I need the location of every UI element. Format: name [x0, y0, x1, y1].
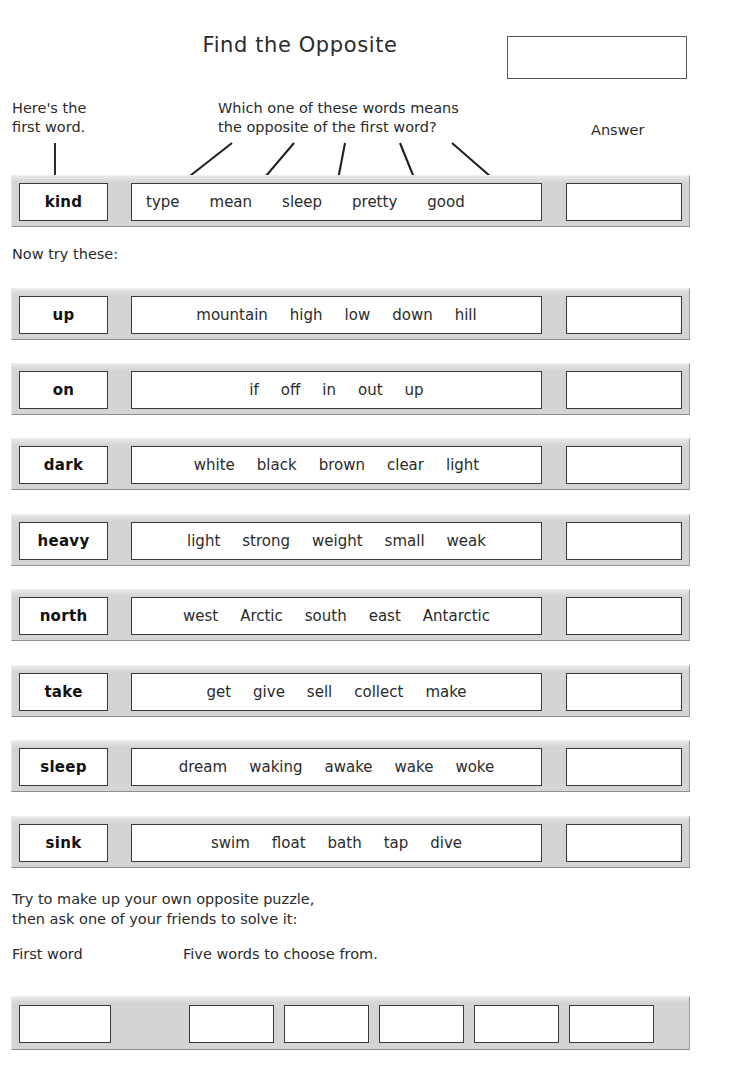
annotation-answer: Answer	[591, 121, 644, 140]
choice-word[interactable]: off	[281, 381, 301, 399]
annotation-which-word: Which one of these words means the oppos…	[218, 99, 459, 137]
row-first-word-box: north	[19, 597, 108, 635]
choice-word[interactable]: down	[392, 306, 432, 324]
choice-word[interactable]: sleep	[282, 193, 322, 211]
choice-word[interactable]: get	[206, 683, 231, 701]
annotation-first-word: Here's the first word.	[12, 99, 86, 137]
row-choices-box: white black brown clear light	[131, 446, 542, 484]
row-first-word-box: up	[19, 296, 108, 334]
choice-word[interactable]: weak	[447, 532, 486, 550]
choice-word[interactable]: woke	[455, 758, 494, 776]
blank-puzzle-row	[11, 996, 690, 1050]
row-choices: get give sell collect make	[206, 683, 466, 701]
choice-word[interactable]: weight	[312, 532, 363, 550]
row-choices: dream waking awake wake woke	[179, 758, 494, 776]
choice-word[interactable]: in	[322, 381, 336, 399]
choice-word[interactable]: good	[427, 193, 464, 211]
choice-word[interactable]: small	[385, 532, 425, 550]
row-first-word: dark	[44, 456, 83, 474]
choice-word[interactable]: sell	[307, 683, 332, 701]
row-choices-box: light strong weight small weak	[131, 522, 542, 560]
row-first-word: on	[53, 381, 75, 399]
example-choices: type mean sleep pretty good	[146, 193, 465, 211]
choice-word[interactable]: dive	[430, 834, 462, 852]
choice-word[interactable]: waking	[249, 758, 302, 776]
row-answer-box[interactable]	[566, 824, 682, 862]
choice-word[interactable]: brown	[319, 456, 365, 474]
choice-word[interactable]: if	[249, 381, 258, 399]
row-choices-box: mountain high low down hill	[131, 296, 542, 334]
puzzle-row: dark white black brown clear light	[11, 438, 690, 490]
row-choices: mountain high low down hill	[196, 306, 476, 324]
blank-choice-box[interactable]	[189, 1005, 274, 1043]
choice-word[interactable]: south	[305, 607, 347, 625]
row-answer-box[interactable]	[566, 296, 682, 334]
choice-word[interactable]: swim	[211, 834, 250, 852]
puzzle-row: sink swim float bath tap dive	[11, 816, 690, 868]
example-answer-box[interactable]	[566, 183, 682, 221]
row-answer-box[interactable]	[566, 748, 682, 786]
choice-word[interactable]: bath	[328, 834, 362, 852]
blank-choice-box[interactable]	[569, 1005, 654, 1043]
name-box[interactable]	[507, 36, 687, 79]
choice-word[interactable]: east	[369, 607, 401, 625]
choice-word[interactable]: give	[253, 683, 285, 701]
row-first-word: north	[40, 607, 88, 625]
choice-word[interactable]: type	[146, 193, 180, 211]
row-choices: west Arctic south east Antarctic	[183, 607, 490, 625]
example-choices-box: type mean sleep pretty good	[131, 183, 542, 221]
choice-word[interactable]: collect	[354, 683, 403, 701]
blank-choice-box[interactable]	[474, 1005, 559, 1043]
choice-word[interactable]: mean	[210, 193, 253, 211]
puzzle-row: take get give sell collect make	[11, 665, 690, 717]
choice-word[interactable]: hill	[455, 306, 477, 324]
choice-word[interactable]: light	[446, 456, 479, 474]
choice-word[interactable]: black	[257, 456, 297, 474]
row-answer-box[interactable]	[566, 446, 682, 484]
row-first-word-box: sleep	[19, 748, 108, 786]
choice-word[interactable]: float	[272, 834, 306, 852]
row-first-word-box: on	[19, 371, 108, 409]
row-first-word: heavy	[37, 532, 89, 550]
example-row: kind type mean sleep pretty good	[11, 175, 690, 227]
choice-word[interactable]: mountain	[196, 306, 268, 324]
choice-word[interactable]: wake	[395, 758, 434, 776]
row-choices: if off in out up	[249, 381, 423, 399]
row-answer-box[interactable]	[566, 673, 682, 711]
choice-word[interactable]: up	[405, 381, 424, 399]
blank-first-word-box[interactable]	[19, 1005, 111, 1043]
choice-word[interactable]: low	[345, 306, 371, 324]
puzzle-row: north west Arctic south east Antarctic	[11, 589, 690, 641]
choice-word[interactable]: out	[358, 381, 383, 399]
choice-word[interactable]: strong	[242, 532, 290, 550]
example-first-word: kind	[45, 193, 83, 211]
row-first-word: sink	[46, 834, 82, 852]
choice-word[interactable]: dream	[179, 758, 227, 776]
row-answer-box[interactable]	[566, 597, 682, 635]
row-answer-box[interactable]	[566, 522, 682, 560]
choice-word[interactable]: awake	[325, 758, 373, 776]
blank-choice-box[interactable]	[284, 1005, 369, 1043]
choice-word[interactable]: clear	[387, 456, 424, 474]
choice-word[interactable]: white	[194, 456, 235, 474]
row-first-word-box: take	[19, 673, 108, 711]
row-choices: light strong weight small weak	[187, 532, 486, 550]
choice-word[interactable]: high	[290, 306, 323, 324]
row-first-word-box: dark	[19, 446, 108, 484]
choice-word[interactable]: make	[425, 683, 466, 701]
choice-word[interactable]: pretty	[352, 193, 397, 211]
blank-choice-box[interactable]	[379, 1005, 464, 1043]
puzzle-row: heavy light strong weight small weak	[11, 514, 690, 566]
choice-word[interactable]: light	[187, 532, 220, 550]
choice-word[interactable]: west	[183, 607, 218, 625]
row-first-word: up	[52, 306, 74, 324]
row-answer-box[interactable]	[566, 371, 682, 409]
row-first-word-box: sink	[19, 824, 108, 862]
row-choices-box: get give sell collect make	[131, 673, 542, 711]
choice-word[interactable]: tap	[384, 834, 409, 852]
puzzle-row: sleep dream waking awake wake woke	[11, 740, 690, 792]
row-choices-box: dream waking awake wake woke	[131, 748, 542, 786]
choice-word[interactable]: Arctic	[240, 607, 283, 625]
row-first-word: sleep	[40, 758, 87, 776]
choice-word[interactable]: Antarctic	[423, 607, 490, 625]
